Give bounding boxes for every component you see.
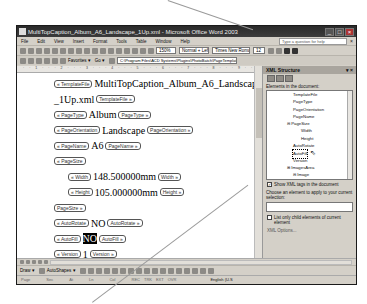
favorites-menu[interactable]: Favorites ▾ <box>68 58 91 63</box>
stop-icon[interactable] <box>36 58 42 64</box>
line-style-icon[interactable] <box>176 268 182 274</box>
xml-close-tag[interactable]: PageOrientation » <box>147 126 193 134</box>
bold-button[interactable] <box>268 48 274 54</box>
table-icon[interactable] <box>132 48 138 54</box>
pane-close-icon[interactable]: ▾ × <box>346 67 353 73</box>
xml-value[interactable]: 105.000000mm <box>95 187 158 198</box>
collapse-icon[interactable]: ⊟ <box>287 121 290 126</box>
spelling-icon[interactable] <box>76 48 82 54</box>
shadow-icon[interactable] <box>200 268 206 274</box>
select-objects-icon[interactable] <box>39 268 45 274</box>
redo-icon[interactable] <box>124 48 130 54</box>
xml-open-tag[interactable]: « PageType <box>54 111 87 119</box>
forward-icon[interactable] <box>28 58 34 64</box>
menu-table[interactable]: Table <box>136 39 147 44</box>
xml-open-tag[interactable]: « PageSize <box>54 157 86 165</box>
maximize-button[interactable]: □ <box>335 28 344 36</box>
go-menu[interactable]: Go ▾ <box>95 58 105 63</box>
xml-open-tag[interactable]: « AutoRotate <box>54 219 89 227</box>
cut-icon[interactable] <box>92 48 98 54</box>
xml-open-tag[interactable]: « PageOrientation <box>54 126 100 134</box>
tree-item[interactable]: Width <box>267 127 352 134</box>
permission-icon[interactable] <box>44 48 50 54</box>
font-color-icon[interactable] <box>168 268 174 274</box>
menu-tools[interactable]: Tools <box>116 39 127 44</box>
back-arrow-icon[interactable] <box>267 75 275 82</box>
home-icon[interactable] <box>52 58 58 64</box>
xml-close-tag[interactable]: AutoRotate » <box>107 219 142 227</box>
xml-close-tag[interactable]: Height » <box>160 188 185 196</box>
line-color-icon[interactable] <box>160 268 166 274</box>
vertical-scroll-thumb[interactable] <box>256 88 262 138</box>
refresh-icon[interactable] <box>44 58 50 64</box>
font-select[interactable]: Times New Roman <box>212 47 250 54</box>
dash-style-icon[interactable] <box>184 268 190 274</box>
address-input[interactable]: C:\Program Files\ACD Systems\Plugins\Pho… <box>117 57 237 64</box>
font-size-select[interactable]: 12 <box>253 47 265 54</box>
xml-open-tag[interactable]: « Height <box>68 188 93 196</box>
xml-close-tag[interactable]: PageType » <box>118 111 151 119</box>
menu-file[interactable]: File <box>21 39 28 44</box>
status-ovr[interactable]: OVR <box>168 277 177 282</box>
list-child-elements-checkbox[interactable] <box>267 215 272 220</box>
open-icon[interactable] <box>28 48 34 54</box>
home-icon[interactable] <box>285 75 293 82</box>
italic-button[interactable] <box>276 48 282 54</box>
xml-value[interactable]: MultiTopCaption_Album_A6_Landscape <box>94 78 261 89</box>
tree-scrollbar[interactable] <box>347 91 352 179</box>
xml-value[interactable]: Album <box>89 109 117 120</box>
tree-item-expandable[interactable]: ⊞ ImagesArea <box>267 164 352 171</box>
columns-icon[interactable] <box>140 48 146 54</box>
tree-item[interactable]: Height <box>267 135 352 142</box>
normal-view-icon[interactable] <box>20 260 24 264</box>
horizontal-scrollbar[interactable] <box>50 260 352 265</box>
tree-item-expandable[interactable]: ⊟ Image <box>267 171 352 178</box>
xml-open-tag[interactable]: « TemplateFile <box>54 80 92 88</box>
wordart-icon[interactable] <box>120 268 126 274</box>
search-web-icon[interactable] <box>60 58 66 64</box>
rectangle-icon[interactable] <box>96 268 102 274</box>
xml-value[interactable]: 148.500000mm <box>93 171 156 182</box>
xml-close-tag[interactable]: PageName » <box>105 142 140 150</box>
arrow-icon[interactable] <box>88 268 94 274</box>
close-button[interactable]: × <box>345 28 354 36</box>
xml-close-tag[interactable]: TemplateFile » <box>96 95 135 103</box>
show-hide-icon[interactable] <box>148 48 154 54</box>
style-select[interactable]: Normal + Left: <box>179 47 209 54</box>
xml-open-tag[interactable]: « AutoFill <box>54 235 81 243</box>
document-content[interactable]: « TemplateFile MultiTopCaption_Album_A6_… <box>53 76 252 262</box>
fill-color-icon[interactable] <box>152 268 158 274</box>
print-layout-view-icon[interactable] <box>32 260 36 264</box>
status-trk[interactable]: TRK <box>144 277 152 282</box>
status-rec[interactable]: REC <box>132 277 140 282</box>
forward-arrow-icon[interactable] <box>276 75 284 82</box>
tree-item-expandable[interactable]: ⊟ PageSize <box>267 120 352 127</box>
xml-close-tag[interactable]: PageSize » <box>54 204 86 212</box>
help-search-input[interactable]: Type a question for help <box>279 38 347 45</box>
xml-value[interactable]: A6 <box>91 140 103 151</box>
xml-value[interactable]: _1Up.xml <box>54 94 94 105</box>
zoom-select[interactable]: 150% <box>156 47 176 54</box>
xml-value[interactable]: Landscape <box>102 125 145 136</box>
collapse-icon[interactable]: ⊟ <box>293 172 296 177</box>
line-icon[interactable] <box>80 268 86 274</box>
apply-element-list[interactable] <box>266 202 353 212</box>
menu-view[interactable]: View <box>54 39 64 44</box>
vertical-scrollbar[interactable] <box>254 66 262 261</box>
research-icon[interactable] <box>84 48 90 54</box>
list-child-elements-option[interactable]: List only child elements of current elem… <box>263 213 356 227</box>
menu-format[interactable]: Format <box>93 39 107 44</box>
tree-item[interactable]: AutoRotate <box>267 142 352 149</box>
email-icon[interactable] <box>52 48 58 54</box>
textbox-icon[interactable] <box>112 268 118 274</box>
arrow-style-icon[interactable] <box>192 268 198 274</box>
outline-view-icon[interactable] <box>38 260 42 264</box>
menu-window[interactable]: Window <box>156 39 172 44</box>
xml-close-tag[interactable]: AutoFill » <box>99 235 126 243</box>
tree-item[interactable]: PageName <box>267 113 352 120</box>
save-icon[interactable] <box>36 48 42 54</box>
align-button[interactable] <box>284 48 290 54</box>
xml-value[interactable]: NO <box>91 218 105 229</box>
show-only-web-toolbar-icon[interactable] <box>109 58 115 64</box>
menu-help[interactable]: Help <box>181 39 190 44</box>
